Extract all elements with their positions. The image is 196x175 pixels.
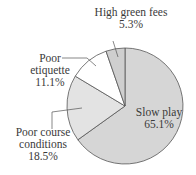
label-name: High green fees: [76, 6, 186, 18]
label-pct: 11.1%: [22, 76, 78, 88]
label-pct: 5.3%: [76, 18, 186, 30]
label-high-green-fees: High green fees 5.3%: [76, 6, 186, 30]
label-name: Poor: [22, 52, 78, 64]
label-pct: 18.5%: [6, 150, 80, 162]
label-poor-etiquette: Poor etiquette 11.1%: [22, 52, 78, 88]
label-pct: 65.1%: [124, 118, 194, 130]
label-name: Slow play: [124, 106, 194, 118]
label-poor-course-conditions: Poor course conditions 18.5%: [6, 126, 80, 162]
label-name: Poor course: [6, 126, 80, 138]
label-name: conditions: [6, 138, 80, 150]
label-slow-play: Slow play 65.1%: [124, 106, 194, 130]
label-name: etiquette: [22, 64, 78, 76]
